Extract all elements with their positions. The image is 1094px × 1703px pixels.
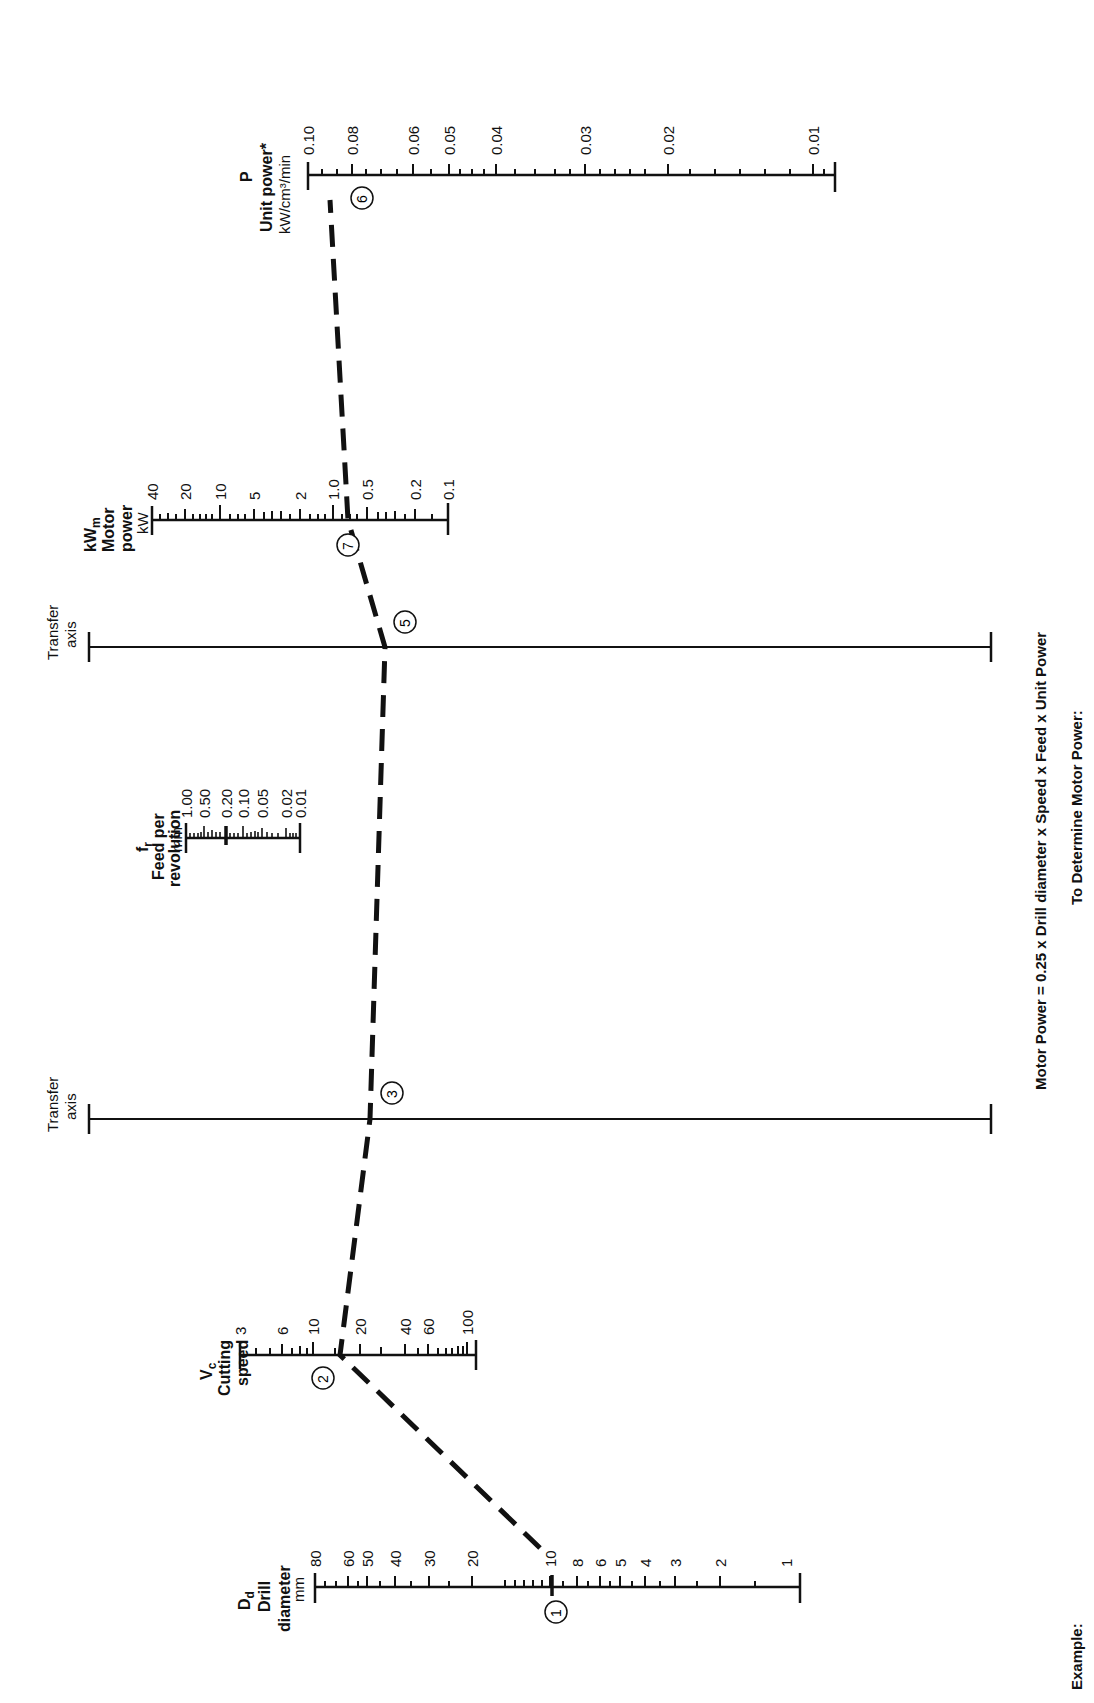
drill-symbol: Dd	[236, 1591, 257, 1610]
svg-text:1: 1	[548, 1609, 564, 1617]
svg-text:7: 7	[340, 542, 356, 550]
svg-text:6: 6	[354, 195, 370, 203]
tick-label: 20	[464, 1550, 481, 1567]
speed-title-1: Cutting	[216, 1340, 233, 1396]
tick-label: 1	[778, 1559, 795, 1567]
marker-3: 3	[381, 1082, 403, 1104]
tick-label: 20	[177, 483, 194, 500]
tick-label: 0.04	[488, 126, 505, 155]
unit-power-unit: kW/cm³/min	[276, 155, 293, 234]
svg-text:2: 2	[315, 1375, 331, 1383]
feed-unit: mm	[168, 827, 185, 852]
marker-6: 6	[351, 187, 373, 209]
tick-label: 60	[420, 1318, 437, 1335]
tick-label: 5	[612, 1559, 629, 1567]
tick-label: 5	[246, 492, 263, 500]
unit-power-scale: 0.10 0.08 0.06 0.05 0.04 0.03 0.02 0.01 …	[238, 126, 835, 234]
unit-power-title: Unit power*	[258, 142, 275, 232]
motor-power-unit: kW	[134, 512, 151, 535]
formula-text: Motor Power = 0.25 x Drill diameter x Sp…	[1032, 632, 1049, 1090]
tick-label: 0.08	[344, 126, 361, 155]
tick-label: 0.10	[300, 126, 317, 155]
drill-title-1: Drill	[256, 1581, 273, 1612]
transfer-axis-lower: Transfer axis	[44, 1077, 991, 1134]
tick-label: 0.50	[196, 789, 213, 818]
motor-power-title-1: Motor	[100, 508, 117, 552]
tick-label: 3	[232, 1327, 249, 1335]
tick-label: 80	[307, 1550, 324, 1567]
tick-label: 40	[387, 1550, 404, 1567]
transfer-label-1: Transfer	[44, 605, 61, 660]
feed-scale: 1.00 0.50 0.20 0.10 0.05 0.02 0.01 fr Fe…	[134, 789, 309, 887]
feed-title-1: Feed per	[150, 813, 167, 880]
example-label: Example:	[1068, 1623, 1085, 1690]
tick-label: 10	[305, 1318, 322, 1335]
tick-label: 3	[667, 1559, 684, 1567]
step-markers: 1 2 3 5 7 6	[312, 187, 567, 1623]
tick-label: 10	[542, 1550, 559, 1567]
tick-label: 60	[340, 1550, 357, 1567]
tick-label: 0.5	[359, 479, 376, 500]
tick-label: 30	[421, 1550, 438, 1567]
tick-label: 0.2	[407, 479, 424, 500]
drill-unit: mm	[290, 1577, 307, 1602]
heading-text: To Determine Motor Power:	[1068, 710, 1085, 905]
tick-label: 100	[459, 1310, 476, 1335]
transfer-label-2: axis	[62, 1093, 79, 1120]
marker-5: 5	[394, 611, 416, 633]
tick-label: 0.01	[292, 789, 309, 818]
motor-power-scale: 40 20 10 5 2 1.0 0.5 0.2 0.1 kWm Motor p…	[82, 479, 457, 552]
tick-label: 1.0	[325, 479, 342, 500]
speed-title-2: speed	[234, 1340, 251, 1386]
tick-label: 20	[352, 1318, 369, 1335]
nomogram: 0.10 0.08 0.06 0.05 0.04 0.03 0.02 0.01 …	[0, 0, 1094, 1703]
tick-label: 0.05	[441, 126, 458, 155]
tick-label: 0.03	[577, 126, 594, 155]
tick-label: 0.01	[805, 126, 822, 155]
tick-label: 8	[569, 1559, 586, 1567]
transfer-axis-upper: Transfer axis	[44, 605, 991, 662]
svg-text:5: 5	[397, 619, 413, 627]
transfer-label-2: axis	[62, 621, 79, 648]
marker-2: 2	[312, 1367, 334, 1389]
marker-1: 1	[545, 1601, 567, 1623]
tick-label: 4	[637, 1559, 654, 1567]
tick-label: 40	[397, 1318, 414, 1335]
tick-label: 6	[274, 1327, 291, 1335]
transfer-label-1: Transfer	[44, 1077, 61, 1132]
tick-label: 10	[212, 483, 229, 500]
isopleth-line	[330, 200, 540, 1548]
motor-power-title-2: power	[118, 505, 135, 552]
tick-label: 0.20	[218, 789, 235, 818]
tick-label: 0.06	[405, 126, 422, 155]
marker-7: 7	[337, 534, 359, 556]
tick-label: 0.05	[254, 789, 271, 818]
svg-text:3: 3	[384, 1090, 400, 1098]
tick-label: 50	[359, 1550, 376, 1567]
tick-label: 6	[592, 1559, 609, 1567]
tick-label: 0.02	[660, 126, 677, 155]
cutting-speed-scale: 3 6 10 20 40 60 100 Vc Cutting speed	[198, 1310, 476, 1396]
tick-label: 40	[144, 483, 161, 500]
tick-label: 2	[712, 1559, 729, 1567]
tick-label: 2	[292, 492, 309, 500]
tick-label: 0.1	[440, 479, 457, 500]
unit-power-symbol: P	[238, 171, 255, 182]
tick-label: 0.10	[235, 789, 252, 818]
drill-diameter-scale: 80 60 50 40 30 20 10 8 6 5 4 3 2 1 Dd Dr…	[236, 1550, 800, 1632]
